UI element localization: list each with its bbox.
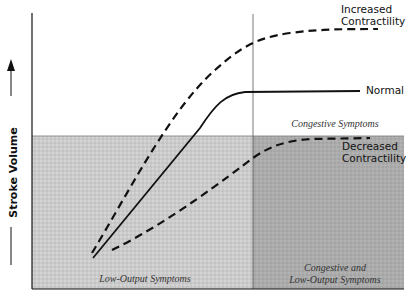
- decreased-label-2: Contractility: [342, 153, 406, 164]
- increased-label-2: Contractility: [341, 16, 405, 27]
- low-output-region: [32, 136, 253, 289]
- low-output-label: Low-Output Symptoms: [90, 273, 200, 284]
- congestive-symptoms-label: Congestive Symptoms: [285, 118, 385, 129]
- y-axis-arrow-icon: [7, 59, 15, 71]
- normal-label: Normal: [366, 85, 404, 96]
- combined-label-2: Low-Output Symptoms: [280, 274, 390, 285]
- combined-label-1: Congestive and: [280, 262, 390, 273]
- y-axis-label: Stroke Volume: [7, 98, 20, 248]
- decreased-label-1: Decreased: [342, 141, 398, 152]
- increased-label-1: Increased: [341, 4, 392, 15]
